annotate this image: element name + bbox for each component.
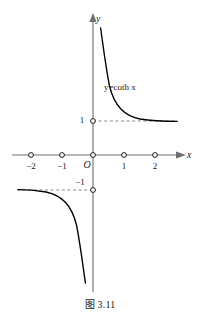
curve-coth-negative — [18, 190, 85, 283]
function-annotation: y=coth x — [104, 83, 136, 92]
origin-label: O — [81, 160, 93, 170]
y-tick-label-minus1: −1 — [71, 178, 89, 187]
x-axis-label: x — [187, 150, 191, 160]
marker-y-1 — [91, 119, 96, 124]
marker-x-minus2 — [29, 153, 34, 158]
x-axis — [12, 151, 186, 158]
x-tick-label-minus2: −2 — [23, 162, 39, 171]
marker-x-2 — [153, 153, 158, 158]
figure-container: y x −2 −1 O 1 2 1 −1 y=coth x 图 3.11 — [0, 0, 200, 322]
marker-x-minus1 — [60, 153, 65, 158]
coth-function-plot — [0, 0, 200, 296]
curve-coth-positive — [101, 28, 177, 121]
marker-y-minus1 — [91, 188, 96, 193]
y-tick-label-1: 1 — [76, 116, 88, 125]
marker-x-1 — [122, 153, 127, 158]
x-tick-label-minus1: −1 — [54, 162, 70, 171]
figure-caption: 图 3.11 — [0, 296, 200, 311]
marker-origin — [91, 153, 96, 158]
x-tick-label-1: 1 — [116, 162, 132, 171]
y-axis-label: y — [96, 14, 100, 24]
x-tick-label-2: 2 — [147, 162, 163, 171]
x-axis-arrow — [176, 151, 186, 158]
